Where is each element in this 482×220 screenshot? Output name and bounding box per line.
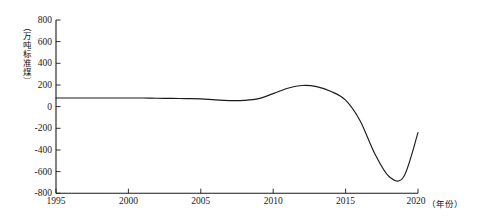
x-ticklabel-2005: 2005 (191, 196, 210, 206)
x-tick-marks (56, 189, 418, 194)
x-ticklabel-2000: 2000 (119, 196, 138, 206)
x-ticklabel-1995: 1995 (47, 196, 66, 206)
chart-plot-area (0, 0, 482, 220)
x-ticklabel-2010: 2010 (264, 196, 283, 206)
data-line-series-1 (56, 85, 418, 181)
y-ticklabel-400: 400 (30, 58, 52, 68)
x-ticklabel-2015: 2015 (336, 196, 355, 206)
y-axis-label: （万吨标准煤） (17, 11, 30, 97)
y-ticklabel-200: 200 (30, 80, 52, 90)
y-ticklabel-neg200: -200 (26, 123, 52, 133)
x-ticklabel-2020: 2020 (407, 196, 426, 206)
y-ticklabel-600: 600 (30, 37, 52, 47)
y-ticklabel-0: 0 (30, 102, 52, 112)
y-ticklabel-800: 800 (30, 15, 52, 25)
y-ticklabel-neg400: -400 (26, 145, 52, 155)
chart-figure: （万吨标准煤） 800 600 400 (0, 0, 482, 220)
y-ticklabel-neg600: -600 (26, 167, 52, 177)
y-tick-marks (56, 20, 61, 193)
x-axis-label: （年份） (427, 197, 463, 209)
